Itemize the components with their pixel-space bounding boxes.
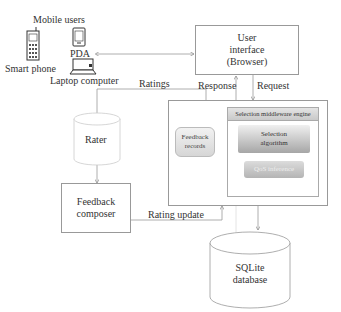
rating-update-edge-label: Rating update	[148, 209, 204, 220]
selection-algorithm-line2: algorithm	[260, 139, 287, 148]
ui-line1: User	[238, 32, 257, 44]
laptop-icon	[69, 58, 97, 75]
pda-icon	[72, 27, 86, 47]
smartphone-label: Smart phone	[5, 63, 56, 74]
request-edge-label: Request	[257, 80, 289, 91]
mobile-users-group: Mobile users Smart phone PDA	[0, 12, 100, 82]
feedback-records-line1: Feedback	[182, 133, 209, 142]
laptop-label: Laptop computer	[50, 75, 119, 86]
selection-engine-title: Selection middleware engine	[228, 108, 318, 121]
mobile-users-label: Mobile users	[33, 14, 85, 25]
qos-module-box: QoS inference	[244, 161, 304, 178]
ratings-edge-label: Ratings	[139, 78, 170, 89]
response-edge-label: Response	[198, 80, 236, 91]
feedback-composer-box: Feedback composer	[61, 183, 131, 233]
ui-line2: interface	[230, 44, 265, 56]
sqlite-database: SQLite database	[210, 262, 290, 286]
sqlite-line1: SQLite	[210, 262, 290, 274]
ui-line3: (Browser)	[227, 56, 268, 68]
rater-label: Rater	[85, 134, 107, 145]
server-box: Feedback records Selection middleware en…	[168, 100, 328, 206]
feedback-records-box: Feedback records	[175, 127, 215, 157]
smartphone-icon	[26, 27, 40, 61]
feedback-composer-line2: composer	[77, 208, 116, 220]
selection-algorithm-box: Selection algorithm	[238, 125, 310, 153]
feedback-composer-line1: Feedback	[77, 196, 115, 208]
user-interface-box: User interface (Browser)	[195, 25, 299, 75]
qos-module-label: QoS inference	[254, 165, 294, 174]
sqlite-line2: database	[210, 274, 290, 286]
feedback-records-line2: records	[185, 142, 206, 151]
selection-algorithm-line1: Selection	[261, 130, 287, 139]
selection-engine-box: Selection middleware engine Selection al…	[227, 107, 319, 197]
